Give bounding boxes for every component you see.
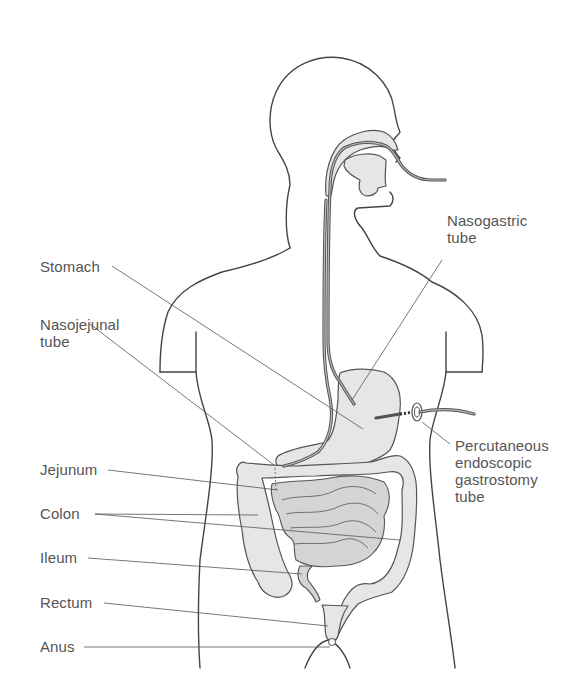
label-peg-tube: Percutaneous endoscopic gastrostomy tube xyxy=(455,437,549,505)
label-nasogastric-tube: Nasogastric tube xyxy=(447,212,527,246)
nasal-oral-cavity xyxy=(326,130,398,198)
label-nasojejunal-tube: Nasojejunal tube xyxy=(40,316,119,350)
anus xyxy=(329,639,336,646)
label-stomach: Stomach xyxy=(40,258,100,275)
label-ileum: Ileum xyxy=(40,549,77,566)
label-rectum: Rectum xyxy=(40,594,92,611)
label-anus: Anus xyxy=(40,638,75,655)
label-colon: Colon xyxy=(40,505,80,522)
body-outline xyxy=(160,57,483,668)
label-jejunum: Jejunum xyxy=(40,461,97,478)
